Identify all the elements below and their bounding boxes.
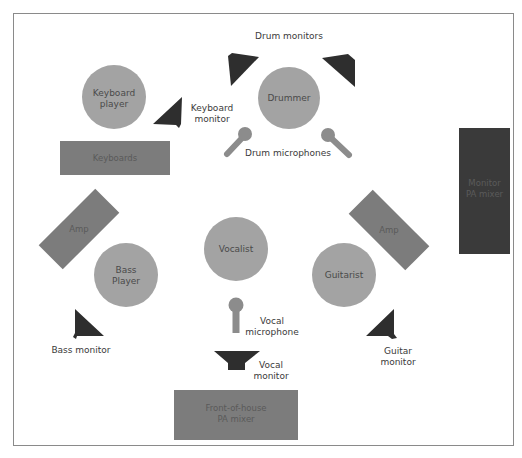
bass-player: Bass Player (94, 243, 158, 307)
svg-text:microphone: microphone (245, 327, 299, 337)
svg-text:monitor: monitor (253, 371, 289, 381)
svg-text:Keyboard: Keyboard (93, 88, 135, 98)
svg-text:monitor: monitor (194, 114, 230, 124)
front-of-house-pa-mixer: Front-of-house PA mixer (174, 390, 298, 440)
svg-text:PA mixer: PA mixer (466, 189, 504, 199)
svg-text:Vocalist: Vocalist (219, 244, 254, 254)
svg-text:Drummer: Drummer (267, 93, 310, 103)
svg-text:Bass: Bass (115, 265, 136, 275)
svg-text:Monitor: Monitor (468, 178, 501, 188)
drum-monitors-label: Drum monitors (255, 31, 323, 41)
vocalist: Vocalist (204, 217, 268, 281)
monitor-pa-mixer: Monitor PA mixer (459, 128, 510, 254)
bass-monitor-label: Bass monitor (51, 345, 110, 355)
stage-plot-diagram: Drum monitors Keyboard player Keyboard m… (0, 0, 522, 458)
svg-text:Vocal: Vocal (260, 316, 284, 326)
drum-microphones-label: Drum microphones (245, 148, 331, 158)
svg-text:Guitarist: Guitarist (325, 270, 364, 280)
svg-text:monitor: monitor (380, 357, 416, 367)
svg-text:Amp: Amp (379, 225, 399, 235)
svg-text:Player: Player (112, 276, 140, 286)
svg-text:Guitar: Guitar (384, 346, 412, 356)
drummer: Drummer (258, 67, 320, 129)
keyboards: Keyboards (60, 141, 170, 175)
keyboard-player: Keyboard player (82, 65, 146, 129)
svg-text:Keyboard: Keyboard (191, 103, 233, 113)
svg-text:PA mixer: PA mixer (217, 414, 255, 424)
svg-text:Keyboards: Keyboards (93, 153, 138, 163)
guitarist: Guitarist (312, 243, 376, 307)
svg-text:Amp: Amp (69, 224, 89, 234)
svg-text:Front-of-house: Front-of-house (205, 403, 266, 413)
keyboard-monitor-label: Keyboard monitor (191, 103, 233, 124)
svg-text:Vocal: Vocal (259, 360, 283, 370)
guitar-monitor-label: Guitar monitor (380, 346, 416, 367)
svg-text:player: player (100, 99, 129, 109)
